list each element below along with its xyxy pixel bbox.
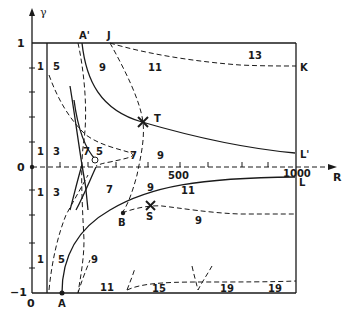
region-label: 3 [53, 146, 60, 157]
label-a-prime: A' [79, 30, 90, 41]
point-b [121, 211, 125, 215]
x-tick-0: 0 [27, 297, 35, 310]
point-a [60, 291, 65, 296]
region-label: 1 [37, 61, 44, 72]
label-b: B [118, 217, 126, 228]
y-tick-minus-1: −1 [10, 286, 27, 299]
region-label: 5 [58, 254, 65, 265]
region-label: 5 [96, 146, 103, 157]
region-label: 15 [152, 283, 166, 294]
region-label: 13 [248, 50, 262, 61]
dash-lower-9 [78, 260, 90, 293]
label-a: A [58, 298, 66, 309]
label-k: K [300, 62, 309, 73]
region-label: 9 [147, 182, 154, 193]
label-t: T [154, 113, 161, 124]
frame [32, 43, 296, 293]
label-l-prime: L' [300, 149, 309, 160]
region-label: 7 [130, 150, 137, 161]
region-label: 5 [53, 61, 60, 72]
y-axis-arrow-icon [29, 8, 35, 16]
region-label: 9 [91, 254, 98, 265]
region-label: 9 [157, 150, 164, 161]
region-label: 7 [106, 184, 113, 195]
x-tick-500: 500 [168, 170, 189, 181]
region-label: 1 [37, 146, 44, 157]
region-label: 19 [268, 283, 282, 294]
region-label: 7 [83, 146, 90, 157]
region-label: 9 [195, 215, 202, 226]
region-diagram: γ 1 0 −1 0 500 1000 R [0, 0, 352, 315]
dash-left-upper [49, 75, 133, 166]
region-label: 11 [181, 185, 195, 196]
marked-points [60, 117, 156, 296]
dash-bottom-tick [127, 268, 135, 290]
region-label: 1 [37, 187, 44, 198]
region-label: 11 [100, 282, 114, 293]
x-axis-label: R [333, 171, 342, 184]
y-axis [29, 8, 35, 293]
curve-a-l [62, 177, 295, 293]
y-axis-label: γ [40, 6, 47, 19]
label-j: J [106, 30, 111, 41]
region-label: 19 [220, 283, 234, 294]
y-tick-0: 0 [17, 161, 25, 174]
region-label: 11 [148, 62, 162, 73]
cusp-line-4 [70, 165, 82, 210]
y-tick-1: 1 [17, 37, 25, 50]
dash-a-prime [78, 43, 86, 293]
dash-v [192, 266, 212, 290]
dash-j-k [110, 43, 296, 66]
region-label: 9 [99, 62, 106, 73]
region-label: 3 [53, 187, 60, 198]
label-s: S [146, 211, 153, 222]
dash-j-t [110, 43, 143, 213]
r-axis-arrow-icon [328, 164, 337, 170]
point-open [92, 157, 98, 163]
region-label: 1 [37, 254, 44, 265]
label-l: L [299, 177, 306, 188]
dashed-curves [49, 43, 296, 293]
